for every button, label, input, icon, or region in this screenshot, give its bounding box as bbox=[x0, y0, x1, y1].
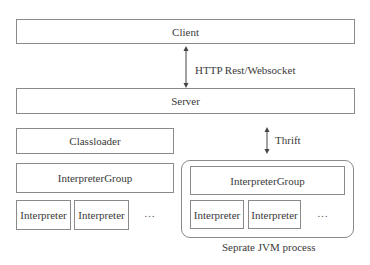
client-label: Client bbox=[172, 26, 199, 38]
classloader-box: Classloader bbox=[16, 128, 174, 154]
interpreter-label: Interpreter bbox=[251, 209, 297, 221]
client-box: Client bbox=[16, 19, 355, 44]
server-label: Server bbox=[171, 95, 200, 107]
remote-interpreter-box-1: Interpreter bbox=[190, 200, 244, 229]
local-interpreter-box-1: Interpreter bbox=[16, 200, 71, 230]
remote-interpreter-box-2: Interpreter bbox=[248, 200, 301, 229]
thrift-link-label: Thrift bbox=[275, 134, 301, 146]
local-interpreter-group-label: InterpreterGroup bbox=[58, 172, 133, 184]
interpreter-label: Interpreter bbox=[20, 209, 66, 221]
classloader-label: Classloader bbox=[69, 135, 120, 147]
local-interpreter-group-box: InterpreterGroup bbox=[16, 163, 174, 193]
remote-interpreter-group-label: InterpreterGroup bbox=[230, 175, 305, 187]
interpreter-label: Interpreter bbox=[194, 209, 240, 221]
http-link-label: HTTP Rest/Websocket bbox=[195, 64, 295, 76]
remote-interpreter-group-box: InterpreterGroup bbox=[190, 166, 345, 195]
interpreter-label: Interpreter bbox=[78, 209, 124, 221]
remote-ellipsis: … bbox=[317, 207, 328, 219]
separate-jvm-caption: Seprate JVM process bbox=[222, 241, 315, 253]
local-ellipsis: … bbox=[144, 207, 155, 219]
http-bidirectional-arrow-icon bbox=[182, 46, 190, 88]
local-interpreter-box-2: Interpreter bbox=[74, 200, 129, 230]
server-box: Server bbox=[16, 88, 355, 114]
thrift-bidirectional-arrow-icon bbox=[263, 127, 271, 154]
